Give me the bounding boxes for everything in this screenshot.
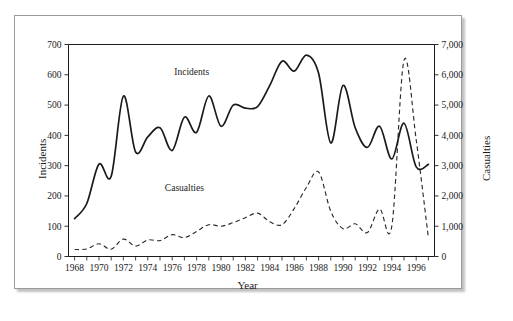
y-right-tick-label: 4,000 bbox=[442, 131, 464, 141]
y-left-tick-label: 400 bbox=[47, 131, 62, 141]
x-tick-label: 1982 bbox=[236, 263, 255, 273]
x-tick-label: 1984 bbox=[260, 263, 279, 273]
series-line-casualties bbox=[75, 58, 429, 249]
series-annotation-label: Casualties bbox=[165, 183, 204, 193]
figure-container: 1968197019721974197619781980198219841986… bbox=[0, 0, 513, 321]
x-tick-label: 1976 bbox=[163, 263, 182, 273]
y-left-tick-labels: 0100200300400500600700 bbox=[47, 40, 62, 262]
y-right-tick-labels: 01,0002,0003,0004,0005,0006,0007,000 bbox=[442, 40, 464, 262]
x-tick-label: 1974 bbox=[138, 263, 157, 273]
y-left-tick-label: 700 bbox=[47, 40, 62, 50]
x-tick-label: 1986 bbox=[285, 263, 304, 273]
y-right-tick-label: 7,000 bbox=[442, 40, 464, 50]
y-left-tick-label: 200 bbox=[47, 191, 62, 201]
y-left-tick-label: 100 bbox=[47, 222, 62, 232]
series-line-incidents bbox=[75, 55, 429, 219]
y-axis-left-title: Incidents bbox=[36, 138, 48, 178]
series-annotation-label: Incidents bbox=[174, 67, 209, 77]
axes-group bbox=[65, 45, 439, 261]
y-right-tick-label: 1,000 bbox=[442, 222, 464, 232]
chart-plot-area: 1968197019721974197619781980198219841986… bbox=[0, 0, 513, 321]
y-axis-right-title: Casualties bbox=[480, 135, 492, 180]
series-annotations: IncidentsCasualties bbox=[165, 67, 210, 194]
x-tick-label: 1970 bbox=[90, 263, 109, 273]
x-tick-label: 1992 bbox=[358, 263, 377, 273]
y-right-tick-label: 6,000 bbox=[442, 70, 464, 80]
y-right-tick-label: 2,000 bbox=[442, 191, 464, 201]
x-tick-label: 1978 bbox=[187, 263, 206, 273]
x-tick-label: 1980 bbox=[212, 263, 231, 273]
x-tick-labels: 1968197019721974197619781980198219841986… bbox=[65, 263, 426, 273]
x-tick-label: 1972 bbox=[114, 263, 133, 273]
x-tick-label: 1994 bbox=[382, 263, 401, 273]
series-group bbox=[75, 55, 429, 249]
y-left-tick-label: 0 bbox=[57, 252, 62, 262]
x-tick-label: 1996 bbox=[407, 263, 426, 273]
x-tick-label: 1990 bbox=[334, 263, 353, 273]
x-axis-title: Year bbox=[238, 279, 258, 291]
y-right-tick-label: 5,000 bbox=[442, 100, 464, 110]
y-left-tick-label: 500 bbox=[47, 100, 62, 110]
y-left-tick-label: 600 bbox=[47, 70, 62, 80]
x-tick-label: 1968 bbox=[65, 263, 84, 273]
x-tick-label: 1988 bbox=[309, 263, 328, 273]
y-right-tick-label: 3,000 bbox=[442, 161, 464, 171]
y-left-tick-label: 300 bbox=[47, 161, 62, 171]
y-right-tick-label: 0 bbox=[442, 252, 447, 262]
